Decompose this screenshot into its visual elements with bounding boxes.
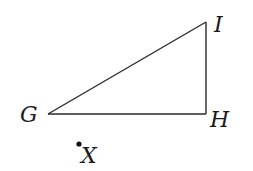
label-vertex-g: G bbox=[20, 102, 38, 127]
label-point-x: X bbox=[79, 143, 98, 168]
triangle-diagram: G H I X bbox=[0, 0, 253, 171]
label-vertex-h: H bbox=[209, 107, 230, 132]
label-vertex-i: I bbox=[213, 12, 224, 37]
edge-i-g bbox=[48, 22, 206, 114]
